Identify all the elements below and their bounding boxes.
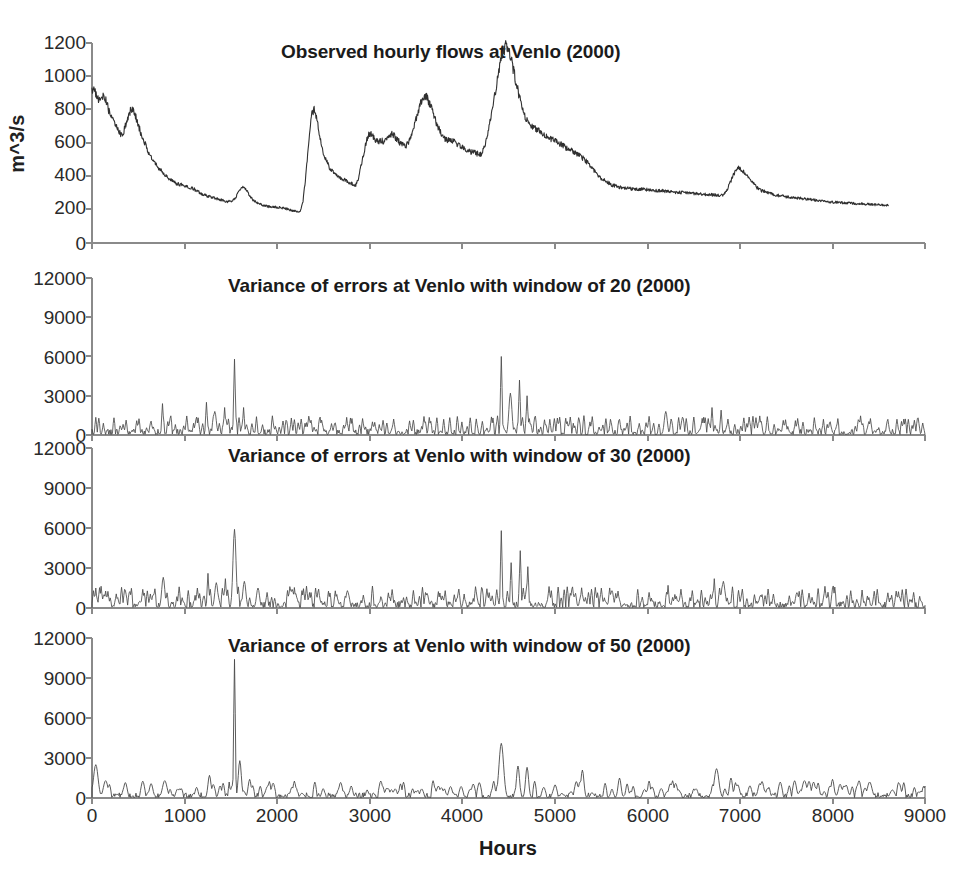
- xtick-1000: 1000: [145, 806, 225, 825]
- panel1-plot: [0, 0, 956, 262]
- panel-variance-window-50: 12000 9000 6000 3000 0 Variance of error…: [0, 622, 956, 822]
- panel4-data-line: [92, 659, 925, 798]
- panel-variance-window-30: 12000 9000 6000 3000 0 Variance of error…: [0, 432, 956, 620]
- xtick-4000: 4000: [422, 806, 502, 825]
- panel1-data-line: [92, 41, 888, 213]
- panel3-data-line: [92, 529, 925, 608]
- panel1-axes: [86, 43, 925, 249]
- xtick-7000: 7000: [700, 806, 780, 825]
- panel2-data-line: [92, 357, 925, 436]
- panel2-plot: [0, 262, 956, 448]
- xtick-0: 0: [52, 806, 132, 825]
- xtick-8000: 8000: [793, 806, 873, 825]
- panel4-axes: [86, 638, 925, 804]
- figure-caption: [28, 860, 688, 872]
- panel2-axes: [86, 278, 925, 441]
- panel3-plot: [0, 432, 956, 620]
- xtick-6000: 6000: [608, 806, 688, 825]
- x-axis-title: Hours: [408, 838, 608, 858]
- panel4-plot: [0, 622, 956, 822]
- panel-variance-window-20: 12000 9000 6000 3000 0 Variance of error…: [0, 262, 956, 448]
- figure-multi-panel-timeseries: m^3/s 1200 1000 800 600 400 200 0 Observ…: [0, 0, 956, 875]
- xtick-5000: 5000: [515, 806, 595, 825]
- panel3-axes: [86, 448, 925, 614]
- xtick-9000: 9000: [885, 806, 956, 825]
- xtick-3000: 3000: [330, 806, 410, 825]
- panel-observed-flows: m^3/s 1200 1000 800 600 400 200 0 Observ…: [0, 0, 956, 262]
- xtick-2000: 2000: [237, 806, 317, 825]
